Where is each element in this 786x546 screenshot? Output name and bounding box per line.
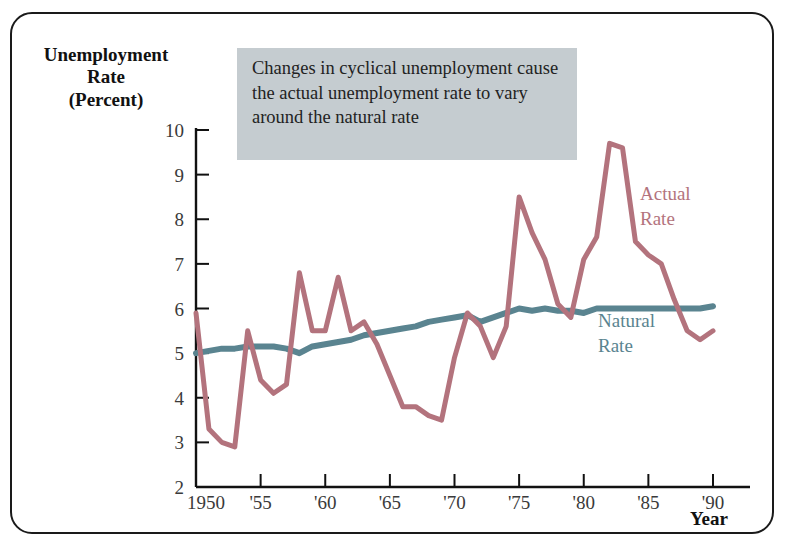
actual-rate-line — [196, 143, 713, 446]
y-tick-label: 6 — [175, 299, 185, 320]
x-tick-label: '75 — [508, 492, 530, 513]
x-tick-label: '60 — [314, 492, 336, 513]
y-tick-label: 8 — [175, 209, 185, 230]
actual-rate-label-line-1: Actual — [640, 183, 691, 204]
x-tick-label: '65 — [379, 492, 401, 513]
x-tick-label: '90 — [702, 492, 724, 513]
y-tick-label: 4 — [175, 388, 185, 409]
y-tick-label: 7 — [175, 254, 185, 275]
y-tick-label: 2 — [175, 477, 185, 498]
natural-rate-label-line-1: Natural — [598, 310, 655, 331]
actual-rate-label-line-2: Rate — [640, 208, 675, 229]
x-tick-group — [196, 474, 713, 487]
natural-rate-label-line-2: Rate — [598, 335, 633, 356]
chart-svg: 2345678910 1950'55'60'65'70'75'80'85'90 … — [0, 0, 786, 546]
y-tick-labels: 2345678910 — [165, 120, 185, 498]
y-tick-group — [196, 130, 209, 487]
x-tick-label: '55 — [249, 492, 271, 513]
y-tick-label: 3 — [175, 432, 185, 453]
x-tick-label: 1950 — [187, 492, 225, 513]
y-tick-label: 9 — [175, 165, 185, 186]
y-tick-label: 5 — [175, 343, 185, 364]
x-tick-label: '85 — [637, 492, 659, 513]
chart-canvas: 2345678910 1950'55'60'65'70'75'80'85'90 … — [0, 0, 786, 546]
x-tick-label: '80 — [573, 492, 595, 513]
x-tick-label: '70 — [443, 492, 465, 513]
x-tick-labels: 1950'55'60'65'70'75'80'85'90 — [187, 492, 724, 513]
y-tick-label: 10 — [165, 120, 184, 141]
